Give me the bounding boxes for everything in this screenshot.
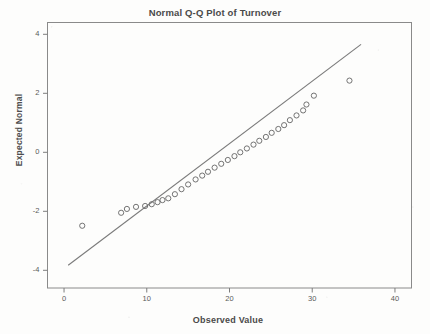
- x-axis-ticks: [64, 288, 395, 293]
- y-tick-label: 0: [20, 147, 40, 156]
- x-tick-label: 10: [135, 294, 159, 303]
- data-point: [172, 192, 177, 197]
- y-tick-label: 2: [20, 88, 40, 97]
- y-tick-label: -2: [20, 206, 40, 215]
- data-point: [244, 146, 249, 151]
- y-tick-label: 4: [20, 29, 40, 38]
- data-point: [186, 182, 191, 187]
- data-point: [257, 138, 262, 143]
- data-point: [294, 113, 299, 118]
- data-point: [166, 196, 171, 201]
- qq-plot-screenshot: Normal Q-Q Plot of Turnover Expected Nor…: [0, 0, 430, 334]
- data-point: [124, 206, 129, 211]
- data-point: [205, 169, 210, 174]
- data-point: [212, 165, 217, 170]
- data-point: [119, 210, 124, 215]
- reference-line: [68, 44, 361, 265]
- plot-area: [0, 0, 430, 334]
- data-point: [193, 177, 198, 182]
- data-point: [80, 223, 85, 228]
- x-tick-label: 20: [218, 294, 242, 303]
- y-axis-ticks: [43, 34, 48, 270]
- data-point: [179, 187, 184, 192]
- data-point: [269, 130, 274, 135]
- data-point: [301, 108, 306, 113]
- data-point: [263, 134, 268, 139]
- data-point: [287, 118, 292, 123]
- data-point: [282, 123, 287, 128]
- data-point: [219, 161, 224, 166]
- data-point: [311, 93, 316, 98]
- data-point: [251, 142, 256, 147]
- data-point: [347, 78, 352, 83]
- y-tick-label: -4: [20, 265, 40, 274]
- data-point: [304, 102, 309, 107]
- data-point: [225, 157, 230, 162]
- data-point: [160, 197, 165, 202]
- data-point: [232, 154, 237, 159]
- x-tick-label: 0: [52, 294, 76, 303]
- data-point: [200, 173, 205, 178]
- data-point: [155, 200, 160, 205]
- plot-frame: [48, 23, 412, 289]
- data-point: [238, 150, 243, 155]
- data-point: [133, 204, 138, 209]
- x-tick-label: 40: [383, 294, 407, 303]
- x-tick-label: 30: [300, 294, 324, 303]
- data-point: [276, 126, 281, 131]
